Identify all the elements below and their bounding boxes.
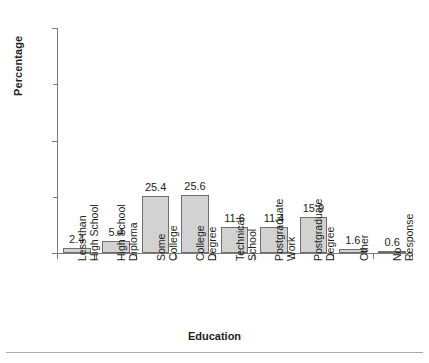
bar-value-label: 0.6 bbox=[373, 237, 412, 248]
category-label: SomeCollege bbox=[156, 225, 179, 261]
category-label-line: Some bbox=[156, 225, 168, 261]
x-axis-tick bbox=[373, 254, 374, 259]
bar-value-label: 2.4 bbox=[57, 234, 96, 245]
bar-value-label: 25.6 bbox=[175, 181, 214, 192]
bar-value-label: 5.4 bbox=[96, 227, 135, 238]
page-divider-rule bbox=[6, 352, 423, 353]
bar-value-label: 1.6 bbox=[333, 235, 372, 246]
x-axis-title: Education bbox=[0, 330, 429, 342]
bar-value-label: 11.6 bbox=[215, 213, 254, 224]
x-axis-tick bbox=[57, 254, 58, 259]
bar-value-label: 15.9 bbox=[294, 203, 333, 214]
bar-chart-figure: Percentage 050100 Less thanHigh SchoolHi… bbox=[0, 0, 429, 363]
category-label-line: College bbox=[195, 225, 207, 261]
category-label-line: Postgraduate bbox=[274, 199, 286, 261]
bar-value-label: 11.4 bbox=[254, 213, 293, 224]
category-label-line: Degree bbox=[207, 225, 219, 261]
category-label-line: College bbox=[167, 225, 179, 261]
y-axis-title: Percentage bbox=[12, 36, 24, 96]
bar-value-label: 25.4 bbox=[136, 182, 175, 193]
category-label: CollegeDegree bbox=[195, 225, 218, 261]
